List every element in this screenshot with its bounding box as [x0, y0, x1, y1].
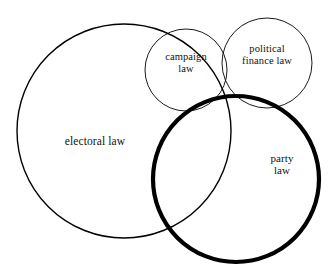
label-electoral-law: electoral law	[40, 135, 150, 148]
venn-diagram: electoral law campaign law political fin…	[0, 0, 332, 267]
label-campaign-law: campaign law	[146, 51, 226, 75]
venn-diagram-canvas	[0, 0, 332, 267]
label-political-finance-law: political finance law	[222, 43, 312, 67]
label-party-law: party law	[252, 152, 312, 177]
